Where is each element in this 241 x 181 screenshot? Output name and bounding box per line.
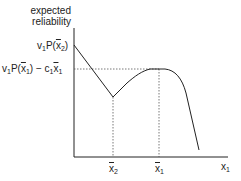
x-tick-x2-label: x2 [109, 163, 118, 177]
x-axis-label: x1 [221, 161, 230, 175]
y-tick-top-label: v1P(x2) [37, 40, 68, 54]
x-tick-x1-label: x1 [155, 163, 164, 177]
y-axis-label: expected reliability [29, 5, 71, 27]
reliability-curve [74, 45, 199, 150]
reliability-diagram [0, 0, 241, 181]
y-tick-mid-label: v1P(x1) − c1x1 [2, 63, 62, 77]
